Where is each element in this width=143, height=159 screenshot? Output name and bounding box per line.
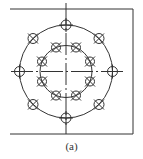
technical-drawing [0,0,143,159]
figure-caption: (a) [0,140,143,152]
